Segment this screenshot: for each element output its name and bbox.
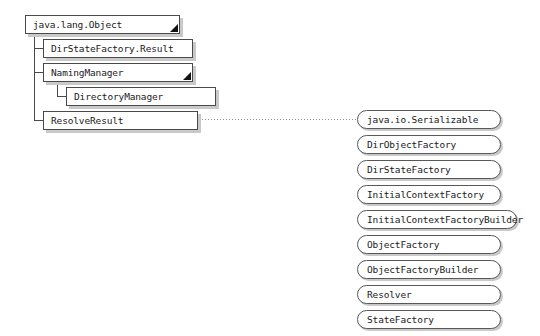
interface-label: DirStateFactory <box>358 165 451 175</box>
class-box-namingmanager[interactable]: NamingManager <box>43 63 193 82</box>
interface-pill-initialcontextfactory[interactable]: InitialContextFactory <box>357 185 501 204</box>
interface-pill-java-io-serializable[interactable]: java.io.Serializable <box>357 110 501 129</box>
interface-pill-initialcontextfactorybuilder[interactable]: InitialContextFactoryBuilder <box>357 210 517 229</box>
tree-elbow-resolveresult <box>34 120 43 121</box>
interface-pill-resolver[interactable]: Resolver <box>357 285 501 304</box>
tree-elbow-namingmanager <box>34 72 43 73</box>
interface-label: DirObjectFactory <box>358 140 456 150</box>
class-box-resolveresult[interactable]: ResolveResult <box>43 111 198 130</box>
class-box-dirstatefactory-result[interactable]: DirStateFactory.Result <box>43 39 193 58</box>
interface-pill-statefactory[interactable]: StateFactory <box>357 310 501 329</box>
interface-label: ObjectFactory <box>358 240 439 250</box>
class-label: NamingManager <box>44 68 123 78</box>
class-label: DirectoryManager <box>67 92 163 102</box>
tree-trunk-namingmanager <box>57 82 58 97</box>
interface-pill-objectfactory[interactable]: ObjectFactory <box>357 235 501 254</box>
interface-label: StateFactory <box>358 315 434 325</box>
interface-label: ObjectFactoryBuilder <box>358 265 478 275</box>
class-label: java.lang.Object <box>26 20 122 30</box>
class-hierarchy-diagram: java.lang.Object DirStateFactory.Result … <box>0 0 540 336</box>
interface-pill-objectfactorybuilder[interactable]: ObjectFactoryBuilder <box>357 260 501 279</box>
class-box-directorymanager[interactable]: DirectoryManager <box>66 87 216 106</box>
interface-label: java.io.Serializable <box>358 115 478 125</box>
tree-elbow-directorymanager <box>57 96 66 97</box>
interface-pill-dirstatefactory[interactable]: DirStateFactory <box>357 160 501 179</box>
class-box-java-lang-object[interactable]: java.lang.Object <box>25 15 180 34</box>
interface-label: InitialContextFactoryBuilder <box>358 215 523 225</box>
interface-label: Resolver <box>358 290 412 300</box>
subclass-marker-icon <box>183 72 191 80</box>
subclass-marker-icon <box>170 24 178 32</box>
interface-pill-dirobjectfactory[interactable]: DirObjectFactory <box>357 135 501 154</box>
implements-dotted-link <box>202 119 357 120</box>
class-label: DirStateFactory.Result <box>44 44 174 54</box>
tree-elbow-dirstatefactory-result <box>34 48 43 49</box>
class-label: ResolveResult <box>44 116 123 126</box>
interface-label: InitialContextFactory <box>358 190 484 200</box>
